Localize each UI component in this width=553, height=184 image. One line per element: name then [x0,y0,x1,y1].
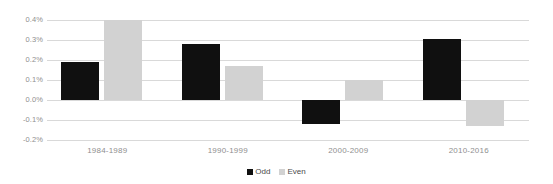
y-tick-label: 0.4% [0,16,43,24]
legend-label: Even [287,167,305,177]
y-tick-label: 0.1% [0,76,43,84]
y-axis: 0.4%0.3%0.2%0.1%0.0%-0.1%-0.2% [0,20,43,140]
bar-odd [423,39,461,100]
x-tick-label: 2000-2009 [288,145,409,157]
bar-group [409,20,530,140]
x-tick-label: 2010-2016 [409,145,530,157]
y-tick-label: 0.3% [0,36,43,44]
bar-group [288,20,409,140]
chart-legend: OddEven [0,165,553,179]
bar-group [168,20,289,140]
bar-odd [61,62,99,100]
bar-even [345,80,383,100]
legend-swatch-icon [279,169,285,175]
legend-entry-even[interactable]: Even [279,167,305,177]
bar-chart: 0.4%0.3%0.2%0.1%0.0%-0.1%-0.2% 1984-1989… [0,0,553,184]
legend-label: Odd [255,167,270,177]
y-tick-label: 0.0% [0,96,43,104]
bar-even [225,66,263,100]
bar-odd [182,44,220,100]
bar-even [104,20,142,100]
bar-even [466,100,504,126]
x-axis: 1984-19891990-19992000-20092010-2016 [47,145,529,159]
plot-area [47,20,529,140]
gridline [47,140,529,141]
x-tick-label: 1984-1989 [47,145,168,157]
bar-group [47,20,168,140]
y-tick-label: 0.2% [0,56,43,64]
x-tick-label: 1990-1999 [168,145,289,157]
y-tick-label: -0.1% [0,116,43,124]
bar-odd [302,100,340,124]
legend-swatch-icon [247,169,253,175]
y-tick-label: -0.2% [0,136,43,144]
legend-entry-odd[interactable]: Odd [247,167,270,177]
